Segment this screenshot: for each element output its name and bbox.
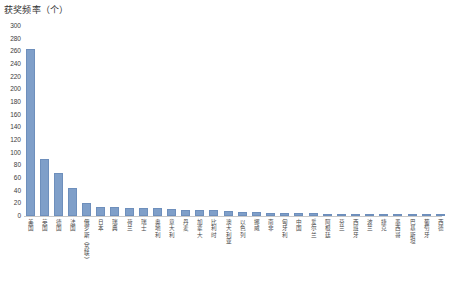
x-tick-label: 丹麦 [182, 219, 189, 232]
bar [153, 208, 162, 216]
y-tick-label: 160 [10, 111, 21, 118]
bar [82, 203, 91, 216]
x-tick-label: 奥地利 [154, 219, 161, 238]
x-tick-label: 法国 [69, 219, 76, 232]
x-tick-label: 瑞士 [140, 219, 147, 232]
y-tick-label: 200 [10, 86, 21, 93]
bar [323, 214, 332, 216]
bar [224, 211, 233, 216]
y-tick-label: 240 [10, 61, 21, 68]
bar [139, 208, 148, 216]
x-tick-label: 葡萄牙 [423, 219, 430, 238]
x-axis-line [24, 216, 442, 217]
x-tick-label: 美国 [27, 219, 34, 232]
x-tick-label: 墨西哥 [394, 219, 401, 238]
y-tick-label: 280 [10, 35, 21, 42]
bar [436, 214, 445, 216]
x-tick-label: 比利时 [210, 219, 217, 238]
x-axis-labels: 美国英国德国法国俄罗斯（苏联）日本瑞典荷兰瑞士奥地利意大利丹麦加拿大比利时澳大利… [24, 219, 449, 295]
y-tick-label: 120 [10, 137, 21, 144]
y-tick-label: 180 [10, 99, 21, 106]
y-axis: 3002802602402202001801601401201008060402… [0, 0, 24, 295]
y-tick-label: 300 [10, 23, 21, 30]
x-tick-label: 日本 [97, 219, 104, 232]
x-tick-label: 波兰 [366, 219, 373, 232]
bar [125, 208, 134, 216]
x-tick-label: 匈牙利 [281, 219, 288, 238]
bar [238, 212, 247, 216]
x-tick-label: 芬兰 [338, 219, 345, 232]
x-tick-label: 爱尔兰 [310, 219, 317, 238]
x-tick-label: 英国 [41, 219, 48, 232]
y-tick-label: 220 [10, 73, 21, 80]
bar [195, 210, 204, 216]
y-tick-label: 0 [17, 213, 21, 220]
bar [379, 214, 388, 216]
bar [54, 173, 63, 216]
bar [337, 214, 346, 216]
bar [408, 214, 417, 216]
x-tick-label: 以色列 [239, 219, 246, 238]
x-tick-label: 南非 [267, 219, 274, 232]
bar [96, 207, 105, 217]
bar [40, 159, 49, 216]
x-tick-label: 挪威 [253, 219, 260, 232]
bar [181, 210, 190, 216]
y-tick-label: 260 [10, 48, 21, 55]
bar [280, 213, 289, 216]
bar [252, 212, 261, 216]
bar [266, 213, 275, 216]
y-tick-label: 100 [10, 149, 21, 156]
x-tick-label: 中国 [295, 219, 302, 232]
bar [294, 213, 303, 216]
x-tick-label: 瑞典 [111, 219, 118, 232]
bar [393, 214, 402, 216]
bar [167, 209, 176, 216]
y-tick-label: 20 [14, 200, 21, 207]
x-tick-label: 俄罗斯（苏联） [83, 219, 90, 263]
bar-chart: 获奖频率（个） 30028026024022020018016014012010… [0, 0, 459, 295]
x-tick-label: 加拿大 [196, 219, 203, 238]
bar [351, 214, 360, 216]
bar [209, 210, 218, 216]
bar [26, 49, 35, 216]
bar [68, 188, 77, 217]
x-tick-label: 澳大利亚 [225, 219, 232, 244]
x-tick-label: 捷克 [380, 219, 387, 232]
bar [309, 213, 318, 216]
y-tick-label: 140 [10, 124, 21, 131]
y-tick-label: 40 [14, 187, 21, 194]
y-tick-label: 80 [14, 162, 21, 169]
x-tick-label: 阿根廷 [324, 219, 331, 238]
x-tick-label: 巴基斯坦 [409, 219, 416, 244]
x-tick-label: 荷兰 [126, 219, 133, 232]
bar [422, 214, 431, 216]
x-tick-label: 西班牙 [352, 219, 359, 238]
bar [365, 214, 374, 216]
x-tick-label: 西德 [437, 219, 444, 232]
bar-series [24, 26, 449, 216]
x-tick-label: 意大利 [168, 219, 175, 238]
x-tick-label: 德国 [55, 219, 62, 232]
y-tick-label: 60 [14, 175, 21, 182]
bar [110, 207, 119, 216]
